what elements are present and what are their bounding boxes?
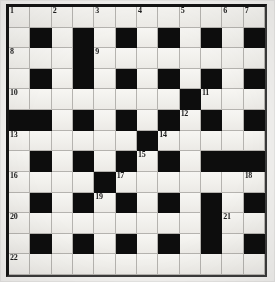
crossword-cell[interactable] — [30, 172, 51, 193]
crossword-cell[interactable] — [222, 234, 243, 255]
crossword-cell[interactable] — [180, 234, 201, 255]
crossword-cell[interactable]: 20 — [9, 213, 30, 234]
crossword-cell[interactable] — [52, 110, 73, 131]
crossword-cell[interactable]: 18 — [244, 172, 265, 193]
crossword-cell[interactable]: 4 — [137, 7, 158, 28]
crossword-cell[interactable] — [222, 28, 243, 49]
crossword-cell[interactable] — [137, 110, 158, 131]
crossword-cell[interactable] — [73, 89, 94, 110]
crossword-cell[interactable] — [52, 28, 73, 49]
crossword-cell[interactable]: 22 — [9, 254, 30, 275]
crossword-cell[interactable] — [137, 172, 158, 193]
crossword-cell[interactable]: 7 — [244, 7, 265, 28]
crossword-cell[interactable]: 9 — [94, 48, 115, 69]
crossword-cell[interactable] — [222, 110, 243, 131]
crossword-cell[interactable]: 1 — [9, 7, 30, 28]
crossword-cell[interactable] — [180, 193, 201, 214]
crossword-cell[interactable] — [94, 254, 115, 275]
crossword-cell[interactable] — [201, 7, 222, 28]
crossword-cell[interactable] — [94, 89, 115, 110]
crossword-cell[interactable]: 19 — [94, 193, 115, 214]
crossword-cell[interactable] — [30, 254, 51, 275]
crossword-cell[interactable] — [52, 213, 73, 234]
crossword-cell[interactable] — [158, 7, 179, 28]
crossword-cell[interactable]: 17 — [116, 172, 137, 193]
crossword-cell[interactable] — [137, 193, 158, 214]
crossword-cell[interactable] — [180, 172, 201, 193]
crossword-cell[interactable]: 3 — [94, 7, 115, 28]
crossword-cell[interactable] — [9, 69, 30, 90]
crossword-cell[interactable] — [201, 48, 222, 69]
crossword-cell[interactable] — [94, 110, 115, 131]
crossword-cell[interactable] — [137, 89, 158, 110]
crossword-cell[interactable] — [30, 7, 51, 28]
crossword-cell[interactable] — [137, 254, 158, 275]
crossword-cell[interactable] — [116, 213, 137, 234]
crossword-cell[interactable]: 8 — [9, 48, 30, 69]
crossword-cell[interactable] — [30, 48, 51, 69]
crossword-grid[interactable]: 12345678910111213141516171819202122 — [9, 7, 265, 275]
crossword-cell[interactable] — [180, 151, 201, 172]
crossword-cell[interactable] — [30, 131, 51, 152]
crossword-cell[interactable]: 13 — [9, 131, 30, 152]
crossword-cell[interactable] — [73, 131, 94, 152]
crossword-cell[interactable] — [137, 69, 158, 90]
crossword-cell[interactable] — [222, 172, 243, 193]
crossword-cell[interactable]: 2 — [52, 7, 73, 28]
crossword-cell[interactable] — [137, 234, 158, 255]
crossword-cell[interactable] — [116, 89, 137, 110]
crossword-cell[interactable] — [52, 172, 73, 193]
crossword-cell[interactable]: 5 — [180, 7, 201, 28]
crossword-cell[interactable] — [180, 69, 201, 90]
crossword-cell[interactable] — [73, 172, 94, 193]
crossword-cell[interactable] — [158, 172, 179, 193]
crossword-cell[interactable] — [30, 213, 51, 234]
crossword-cell[interactable] — [52, 234, 73, 255]
crossword-cell[interactable] — [180, 213, 201, 234]
crossword-cell[interactable] — [116, 254, 137, 275]
crossword-cell[interactable] — [52, 131, 73, 152]
crossword-cell[interactable] — [158, 48, 179, 69]
crossword-cell[interactable] — [244, 131, 265, 152]
crossword-cell[interactable] — [94, 69, 115, 90]
crossword-cell[interactable] — [158, 213, 179, 234]
crossword-cell[interactable] — [137, 213, 158, 234]
crossword-cell[interactable] — [222, 69, 243, 90]
crossword-cell[interactable]: 6 — [222, 7, 243, 28]
crossword-cell[interactable]: 10 — [9, 89, 30, 110]
crossword-cell[interactable] — [201, 254, 222, 275]
crossword-cell[interactable] — [94, 131, 115, 152]
crossword-cell[interactable] — [94, 234, 115, 255]
crossword-cell[interactable]: 16 — [9, 172, 30, 193]
crossword-cell[interactable]: 11 — [201, 89, 222, 110]
crossword-cell[interactable]: 21 — [222, 213, 243, 234]
crossword-cell[interactable] — [73, 7, 94, 28]
crossword-cell[interactable] — [116, 48, 137, 69]
crossword-cell[interactable] — [52, 151, 73, 172]
crossword-cell[interactable] — [94, 151, 115, 172]
crossword-cell[interactable] — [201, 131, 222, 152]
crossword-cell[interactable] — [244, 254, 265, 275]
crossword-cell[interactable] — [52, 69, 73, 90]
crossword-cell[interactable] — [222, 48, 243, 69]
crossword-cell[interactable] — [222, 89, 243, 110]
crossword-cell[interactable] — [180, 131, 201, 152]
crossword-cell[interactable] — [180, 28, 201, 49]
crossword-cell[interactable] — [116, 7, 137, 28]
crossword-cell[interactable] — [52, 254, 73, 275]
crossword-cell[interactable] — [116, 131, 137, 152]
crossword-cell[interactable]: 15 — [137, 151, 158, 172]
crossword-cell[interactable] — [9, 234, 30, 255]
crossword-cell[interactable] — [222, 193, 243, 214]
crossword-cell[interactable] — [30, 89, 51, 110]
crossword-cell[interactable] — [73, 213, 94, 234]
crossword-cell[interactable] — [94, 28, 115, 49]
crossword-cell[interactable] — [137, 28, 158, 49]
crossword-cell[interactable] — [9, 193, 30, 214]
crossword-cell[interactable] — [180, 48, 201, 69]
crossword-cell[interactable] — [52, 48, 73, 69]
crossword-cell[interactable] — [158, 89, 179, 110]
crossword-cell[interactable] — [222, 131, 243, 152]
crossword-cell[interactable] — [73, 254, 94, 275]
crossword-cell[interactable] — [94, 213, 115, 234]
